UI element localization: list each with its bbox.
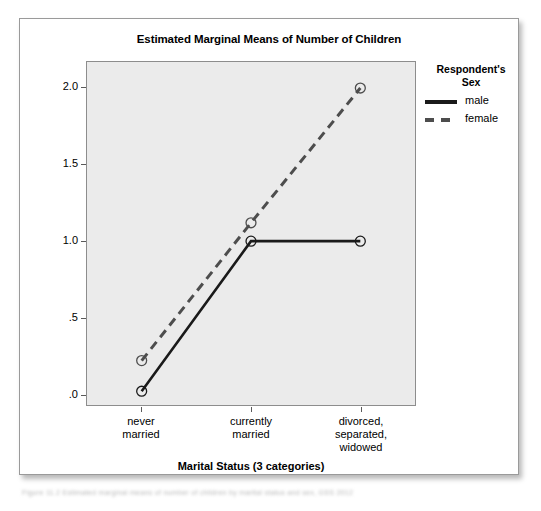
x-tick-label-line: married bbox=[191, 428, 311, 441]
legend-swatch-solid-line-icon bbox=[424, 94, 458, 106]
figure-card: Estimated Marginal Means of Number of Ch… bbox=[19, 18, 519, 475]
y-tick-label: .0 bbox=[34, 389, 78, 400]
legend: Respondent's Sex malefemale bbox=[424, 63, 520, 125]
legend-entries: malefemale bbox=[424, 93, 520, 125]
legend-label: female bbox=[465, 112, 498, 124]
legend-title-line-1: Respondent's bbox=[424, 63, 518, 76]
legend-title: Respondent's Sex bbox=[424, 63, 518, 89]
legend-item-female[interactable]: female bbox=[424, 111, 520, 125]
x-tick-label: nevermarried bbox=[81, 415, 201, 441]
data-point-female bbox=[246, 218, 256, 228]
data-point-female bbox=[137, 356, 147, 366]
legend-item-male[interactable]: male bbox=[424, 93, 520, 107]
figure-caption: Figure 11.2 Estimated marginal means of … bbox=[22, 489, 492, 503]
y-tick-label: .5 bbox=[34, 312, 78, 323]
series-line-male bbox=[142, 241, 361, 391]
x-axis-label: Marital Status (3 categories) bbox=[86, 460, 416, 472]
x-tick-label-line: never bbox=[81, 415, 201, 428]
x-tick-label-line: divorced, bbox=[301, 415, 421, 428]
legend-swatch-dashed-line-icon bbox=[424, 112, 458, 124]
y-tick-label: 2.0 bbox=[34, 81, 78, 92]
chart-title: Estimated Marginal Means of Number of Ch… bbox=[20, 33, 518, 45]
x-tick-label-line: married bbox=[81, 428, 201, 441]
legend-title-line-2: Sex bbox=[424, 76, 518, 89]
x-tick-label-line: widowed bbox=[301, 441, 421, 454]
data-point-male bbox=[137, 386, 147, 396]
data-point-female bbox=[355, 83, 365, 93]
y-tick-label: 1.5 bbox=[34, 158, 78, 169]
x-tick-label: divorced,separated,widowed bbox=[301, 415, 421, 454]
y-tick-label: 1.0 bbox=[34, 235, 78, 246]
x-tick-mark bbox=[361, 407, 362, 412]
x-tick-mark bbox=[141, 407, 142, 412]
plot-area bbox=[86, 61, 416, 406]
legend-label: male bbox=[465, 94, 489, 106]
data-series-group bbox=[137, 83, 366, 396]
x-tick-label-line: currently bbox=[191, 415, 311, 428]
series-line-female bbox=[142, 88, 361, 361]
x-tick-label-line: separated, bbox=[301, 428, 421, 441]
plot-svg bbox=[87, 62, 415, 405]
x-tick-label: currentlymarried bbox=[191, 415, 311, 441]
x-tick-mark bbox=[251, 407, 252, 412]
